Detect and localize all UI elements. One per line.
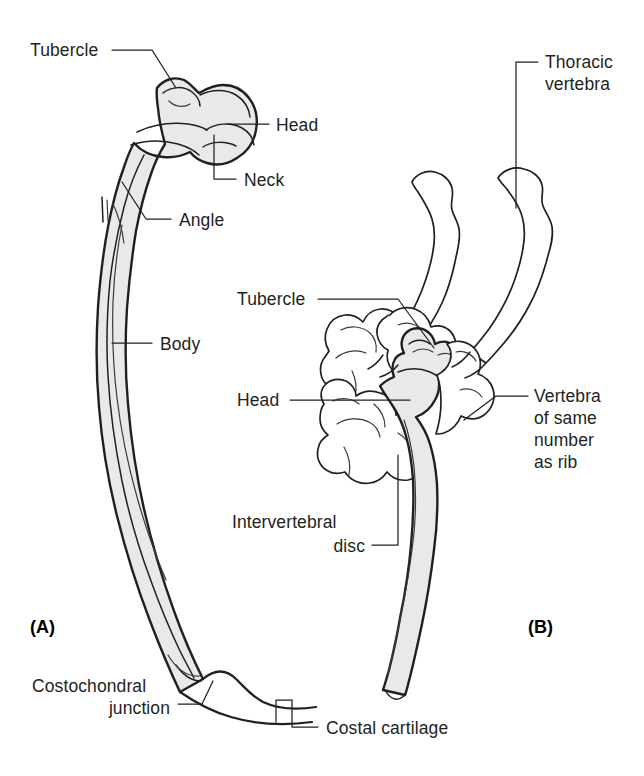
- label-body-a: Body: [160, 334, 200, 354]
- rib-angle-notch: [102, 197, 103, 222]
- svg-text:Thoracic: Thoracic: [545, 52, 613, 72]
- svg-text:number: number: [534, 430, 594, 450]
- label-intervertebral-disc-b: Intervertebral disc: [232, 512, 365, 556]
- panel-label-b: (B): [528, 617, 553, 637]
- label-neck-a: Neck: [244, 170, 284, 190]
- svg-text:junction: junction: [108, 698, 170, 718]
- svg-text:Vertebra: Vertebra: [534, 386, 601, 406]
- label-vertebra-same-number-b: Vertebra of same number as rib: [534, 386, 601, 472]
- svg-text:disc: disc: [333, 536, 365, 556]
- label-angle-a: Angle: [179, 210, 224, 230]
- label-costochondral-junction-a: Costochondral junction: [32, 676, 170, 718]
- svg-text:vertebra: vertebra: [545, 74, 610, 94]
- svg-text:as rib: as rib: [534, 452, 577, 472]
- anatomy-diagram-svg: Tubercle Head Neck Angle Body Costochond…: [0, 0, 644, 776]
- label-tubercle-a: Tubercle: [30, 40, 98, 60]
- svg-text:Costochondral: Costochondral: [32, 676, 146, 696]
- rib-bone-outline: [97, 78, 257, 692]
- label-costal-cartilage-a: Costal cartilage: [326, 718, 448, 738]
- label-head-b: Head: [237, 390, 279, 410]
- panel-b-group: Thoracic vertebra Tubercle Head Vertebra…: [232, 52, 613, 699]
- label-thoracic-vertebra-b: Thoracic vertebra: [545, 52, 613, 94]
- leader-costal-cartilage-bracket: [276, 700, 292, 722]
- label-head-a: Head: [276, 115, 318, 135]
- svg-text:Intervertebral: Intervertebral: [232, 512, 337, 532]
- label-tubercle-b: Tubercle: [237, 289, 305, 309]
- panel-label-a: (A): [30, 617, 55, 637]
- anatomy-figure: Tubercle Head Neck Angle Body Costochond…: [0, 0, 644, 776]
- spinous-process-lower: [470, 168, 552, 363]
- costal-cartilage-upper-curve: [203, 672, 316, 709]
- rib-angle-notch-2: [107, 200, 108, 221]
- svg-text:of same: of same: [534, 408, 597, 428]
